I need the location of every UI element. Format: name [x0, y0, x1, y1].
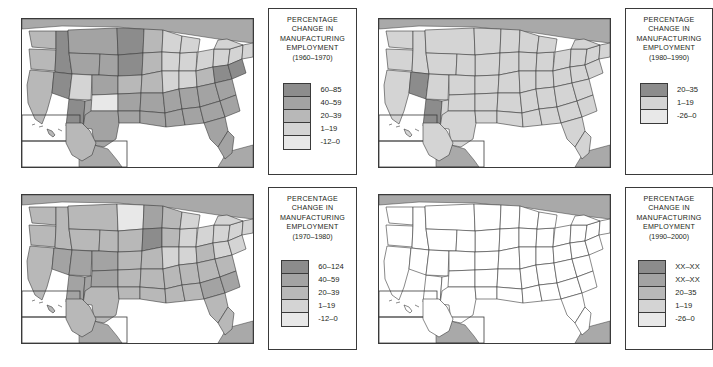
legend-swatch-3 — [641, 110, 667, 123]
legend-title-1970-1980: PERCENTAGE CHANGE IN MANUFACTURING EMPLO… — [269, 188, 356, 242]
legend-label-1: XX–XX — [675, 260, 699, 273]
legend-swatch-1 — [282, 261, 308, 274]
legend-period: (1980–1990) — [626, 54, 712, 63]
legend-key-1970-1980: 60–124 40–59 20–39 1–19 -12–0 — [269, 260, 356, 327]
legend-label-2: 40–59 — [318, 273, 343, 286]
legend-swatch-4 — [639, 300, 665, 313]
legend-1970-1980: PERCENTAGE CHANGE IN MANUFACTURING EMPLO… — [268, 187, 357, 350]
legend-label-column: XX–XX XX–XX 20–35 1–19 -26–0 — [675, 260, 699, 327]
legend-label-5: -12–0 — [320, 135, 341, 148]
legend-swatch-1 — [641, 84, 667, 97]
legend-title-1980-1990: PERCENTAGE CHANGE IN MANUFACTURING EMPLO… — [626, 9, 712, 63]
panel-1970-1980: PERCENTAGE CHANGE IN MANUFACTURING EMPLO… — [0, 183, 357, 367]
legend-label-2: 1–19 — [677, 96, 698, 109]
legend-label-3: 20–35 — [675, 286, 699, 299]
legend-label-3: -26–0 — [677, 109, 698, 122]
legend-title-line1: PERCENTAGE — [626, 195, 712, 204]
legend-swatch-column — [281, 260, 309, 327]
legend-1980-1990: PERCENTAGE CHANGE IN MANUFACTURING EMPLO… — [625, 8, 713, 175]
legend-title-line2: CHANGE IN — [269, 204, 356, 213]
legend-label-5: -12–0 — [318, 312, 343, 325]
legend-swatch-3 — [284, 110, 310, 123]
legend-swatch-3 — [639, 287, 665, 300]
legend-swatch-5 — [284, 136, 310, 149]
panel-1960-1970: PERCENTAGE CHANGE IN MANUFACTURING EMPLO… — [0, 0, 357, 183]
legend-label-4: 1–19 — [318, 299, 343, 312]
legend-swatch-column — [283, 83, 311, 150]
legend-key-1960-1970: 60–85 40–59 20–39 1–19 -12–0 — [269, 83, 356, 150]
legend-swatch-2 — [284, 97, 310, 110]
legend-swatch-2 — [641, 97, 667, 110]
legend-title-line3: MANUFACTURING — [626, 214, 712, 223]
legend-swatch-2 — [639, 274, 665, 287]
legend-label-3: 20–39 — [320, 109, 341, 122]
legend-label-2: XX–XX — [675, 273, 699, 286]
map-frame-1970-1980 — [21, 194, 254, 344]
legend-period: (1970–1980) — [269, 233, 356, 242]
us-choropleth-map-1980-1990 — [379, 19, 610, 167]
legend-title-line2: CHANGE IN — [626, 204, 712, 213]
legend-label-1: 60–85 — [320, 83, 341, 96]
legend-label-3: 20–39 — [318, 286, 343, 299]
legend-1990-2000: PERCENTAGE CHANGE IN MANUFACTURING EMPLO… — [625, 187, 713, 350]
us-choropleth-map-1990-2000 — [379, 195, 610, 343]
map-frame-1980-1990 — [378, 18, 611, 168]
map-frame-1960-1970 — [21, 18, 254, 168]
legend-label-column: 60–124 40–59 20–39 1–19 -12–0 — [318, 260, 343, 327]
legend-title-1990-2000: PERCENTAGE CHANGE IN MANUFACTURING EMPLO… — [626, 188, 712, 242]
legend-label-column: 20–35 1–19 -26–0 — [677, 83, 698, 124]
legend-swatch-5 — [639, 313, 665, 326]
legend-title-line3: MANUFACTURING — [269, 214, 356, 223]
legend-title-line4: EMPLOYMENT — [269, 44, 356, 53]
legend-label-4: 1–19 — [675, 299, 699, 312]
legend-title-line1: PERCENTAGE — [269, 16, 356, 25]
us-choropleth-map-1960-1970 — [22, 19, 253, 167]
panel-1990-2000: PERCENTAGE CHANGE IN MANUFACTURING EMPLO… — [357, 183, 713, 367]
legend-title-line4: EMPLOYMENT — [626, 223, 712, 232]
legend-title-line2: CHANGE IN — [626, 25, 712, 34]
legend-title-1960-1970: PERCENTAGE CHANGE IN MANUFACTURING EMPLO… — [269, 9, 356, 63]
legend-label-2: 40–59 — [320, 96, 341, 109]
legend-swatch-4 — [284, 123, 310, 136]
legend-title-line3: MANUFACTURING — [626, 35, 712, 44]
legend-swatch-3 — [282, 287, 308, 300]
legend-label-4: 1–19 — [320, 122, 341, 135]
us-choropleth-map-1970-1980 — [22, 195, 253, 343]
legend-period: (1960–1970) — [269, 54, 356, 63]
legend-title-line1: PERCENTAGE — [269, 195, 356, 204]
legend-label-1: 20–35 — [677, 83, 698, 96]
legend-swatch-column — [638, 260, 666, 327]
panel-1980-1990: PERCENTAGE CHANGE IN MANUFACTURING EMPLO… — [357, 0, 713, 183]
legend-swatch-1 — [284, 84, 310, 97]
legend-1960-1970: PERCENTAGE CHANGE IN MANUFACTURING EMPLO… — [268, 8, 357, 175]
figure-root: PERCENTAGE CHANGE IN MANUFACTURING EMPLO… — [0, 0, 713, 367]
legend-swatch-4 — [282, 300, 308, 313]
legend-period: (1990–2000) — [626, 233, 712, 242]
legend-swatch-2 — [282, 274, 308, 287]
legend-label-1: 60–124 — [318, 260, 343, 273]
map-frame-1990-2000 — [378, 194, 611, 344]
legend-swatch-1 — [639, 261, 665, 274]
legend-title-line4: EMPLOYMENT — [269, 223, 356, 232]
legend-label-5: -26–0 — [675, 312, 699, 325]
legend-swatch-column — [640, 83, 668, 124]
legend-title-line1: PERCENTAGE — [626, 16, 712, 25]
legend-label-column: 60–85 40–59 20–39 1–19 -12–0 — [320, 83, 341, 150]
legend-swatch-5 — [282, 313, 308, 326]
legend-title-line4: EMPLOYMENT — [626, 44, 712, 53]
legend-title-line3: MANUFACTURING — [269, 35, 356, 44]
legend-key-1990-2000: XX–XX XX–XX 20–35 1–19 -26–0 — [626, 260, 712, 327]
legend-key-1980-1990: 20–35 1–19 -26–0 — [626, 83, 712, 124]
legend-title-line2: CHANGE IN — [269, 25, 356, 34]
